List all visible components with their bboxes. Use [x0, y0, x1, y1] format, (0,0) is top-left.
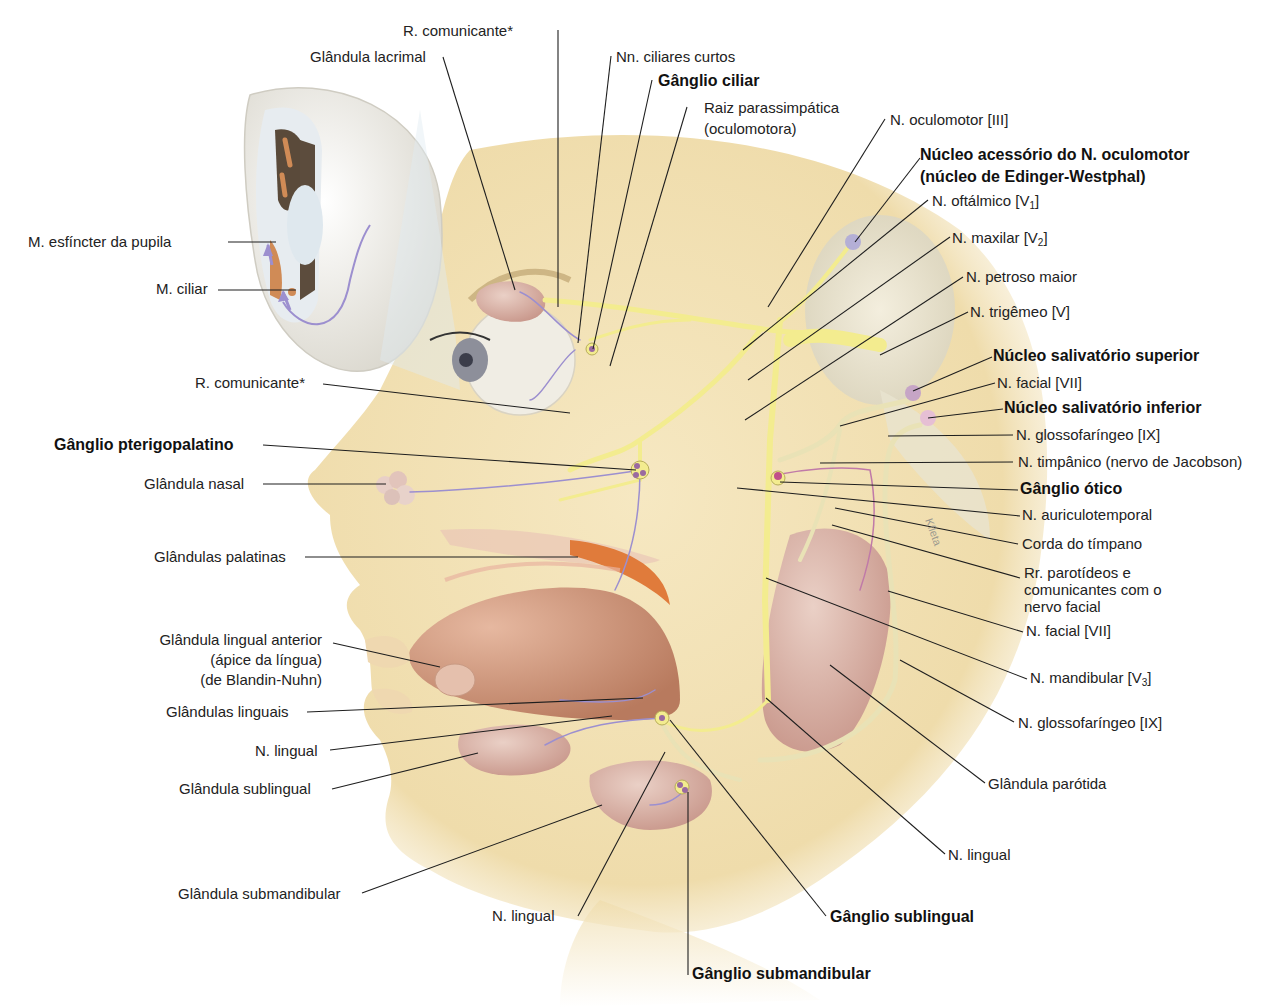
label-n-petroso-maior: N. petroso maior — [966, 268, 1077, 286]
anatomy-figure: Kfleta R. comunicante* Glândula lacrimal… — [0, 0, 1288, 1007]
label-nucleo-edinger-westphal: (núcleo de Edinger-Westphal) — [920, 168, 1146, 186]
label-glandula-parotida: Glândula parótida — [988, 775, 1106, 793]
label-raiz-oculomotora: (oculomotora) — [704, 120, 797, 138]
label-glandula-nasal: Glândula nasal — [144, 475, 244, 493]
label-glandula-sublingual: Glândula sublingual — [179, 780, 311, 798]
edinger-westphal-nucleus — [845, 234, 861, 250]
label-r-comunicante-top: R. comunicante* — [403, 22, 513, 40]
label-n-glossofaringeo-top: N. glossofaríngeo [IX] — [1016, 426, 1160, 444]
label-glandulas-linguais: Glândulas linguais — [166, 703, 289, 721]
label-rr-comunicantes: comunicantes com o — [1024, 581, 1162, 599]
label-raiz-parassimpatica: Raiz parassimpática — [704, 99, 839, 117]
label-nucleo-salivatorio-superior: Núcleo salivatório superior — [993, 347, 1199, 365]
brainstem — [805, 215, 955, 405]
label-nn-ciliares-curtos: Nn. ciliares curtos — [616, 48, 735, 66]
label-n-oculomotor: N. oculomotor [III] — [890, 111, 1008, 129]
label-n-facial-bottom: N. facial [VII] — [1026, 622, 1111, 640]
superior-salivatory-nucleus — [905, 385, 921, 401]
label-m-ciliar: M. ciliar — [156, 280, 208, 298]
label-n-timpanico: N. timpânico (nervo de Jacobson) — [1018, 453, 1242, 471]
label-n-maxilar: N. maxilar [V2] — [952, 229, 1048, 252]
label-nucleo-acessorio: Núcleo acessório do N. oculomotor — [920, 146, 1189, 164]
label-glandula-lacrimal: Glândula lacrimal — [310, 48, 426, 66]
label-n-trigemeo: N. trigêmeo [V] — [970, 303, 1070, 321]
label-glandulas-palatinas: Glândulas palatinas — [154, 548, 286, 566]
label-n-lingual-right: N. lingual — [948, 846, 1011, 864]
label-n-facial-top: N. facial [VII] — [997, 374, 1082, 392]
label-glandula-submandibular: Glândula submandibular — [178, 885, 341, 903]
anterior-lingual-gland — [435, 664, 475, 696]
label-n-auriculotemporal: N. auriculotemporal — [1022, 506, 1152, 524]
label-rr-parotideos: Rr. parotídeos e — [1024, 564, 1131, 582]
label-ganglio-pterigopalatino: Gânglio pterigopalatino — [54, 436, 234, 454]
label-ganglio-submandibular: Gânglio submandibular — [692, 965, 871, 983]
label-ganglio-ciliar: Gânglio ciliar — [658, 72, 759, 90]
label-r-comunicante-left: R. comunicante* — [195, 374, 305, 392]
label-n-glossofaringeo-bottom: N. glossofaríngeo [IX] — [1018, 714, 1162, 732]
label-n-lingual-left: N. lingual — [255, 742, 318, 760]
label-blandin-nuhn: (de Blandin-Nuhn) — [100, 671, 322, 689]
label-corda-do-timpano: Corda do tímpano — [1022, 535, 1142, 553]
label-rr-nervo-facial: nervo facial — [1024, 598, 1101, 616]
label-ganglio-sublingual: Gânglio sublingual — [830, 908, 974, 926]
label-apice-da-lingua: (ápice da língua) — [100, 651, 322, 669]
label-glandula-lingual-anterior: Glândula lingual anterior — [100, 631, 322, 649]
eye-cutaway — [245, 88, 460, 390]
label-ganglio-otico: Gânglio ótico — [1020, 480, 1122, 498]
label-n-lingual-bottom: N. lingual — [492, 907, 555, 925]
label-m-esfincter-pupila: M. esfíncter da pupila — [28, 233, 171, 251]
label-nucleo-salivatorio-inferior: Núcleo salivatório inferior — [1004, 399, 1201, 417]
label-n-mandibular: N. mandibular [V3] — [1030, 669, 1151, 692]
label-n-oftalmico: N. oftálmico [V1] — [932, 192, 1039, 215]
